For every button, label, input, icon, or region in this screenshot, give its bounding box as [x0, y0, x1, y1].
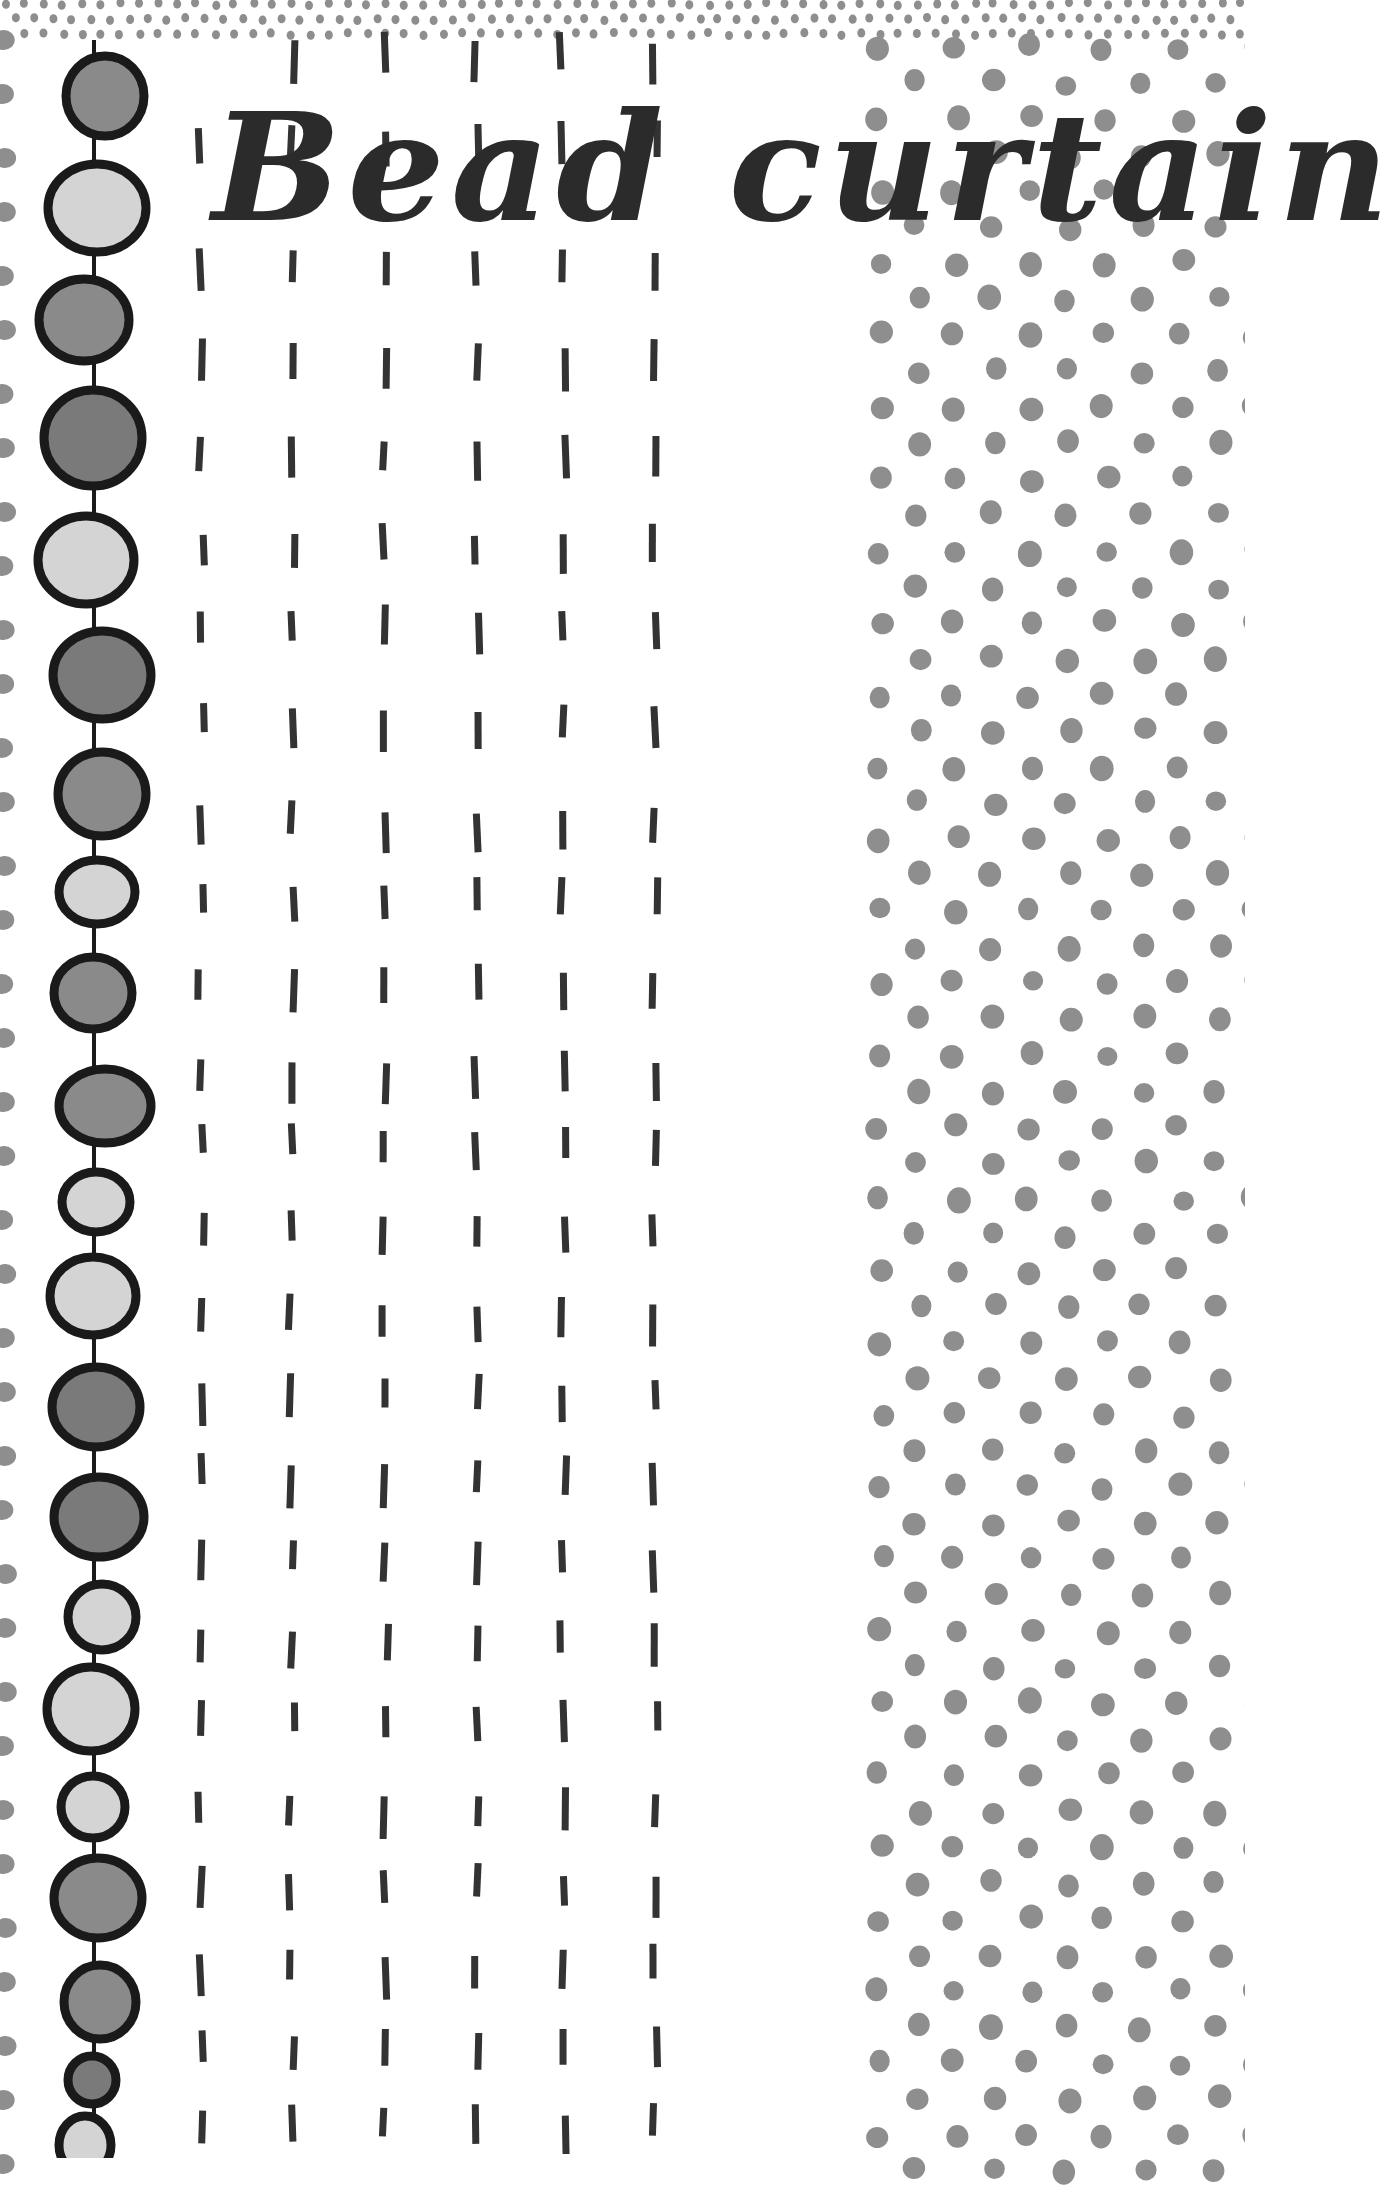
top-band-dot-icon — [430, 16, 438, 25]
polka-dot-field — [865, 33, 1245, 2185]
top-band-dot-icon — [20, 0, 28, 8]
polka-dot-icon — [1131, 363, 1154, 385]
polka-dot-icon — [867, 1617, 891, 1641]
polka-dot-icon — [870, 687, 890, 708]
polka-dot-icon — [947, 1187, 971, 1213]
top-dot-band — [2, 0, 1244, 40]
dash-mark-icon — [197, 611, 204, 642]
polka-dot-icon — [1054, 1443, 1075, 1463]
polka-dot-icon — [940, 1045, 964, 1069]
polka-dot-icon — [1205, 1511, 1228, 1535]
top-band-dot-icon — [1046, 0, 1054, 9]
polka-dot-icon — [1209, 1581, 1231, 1606]
top-band-dot-icon — [1142, 0, 1150, 7]
polka-dot-icon — [978, 862, 1001, 887]
polka-dot-icon — [986, 357, 1007, 380]
polka-dot-icon — [903, 1439, 925, 1462]
top-band-dot-icon — [212, 1, 220, 10]
top-band-dot-icon — [495, 0, 503, 8]
dash-mark-icon — [288, 1210, 296, 1240]
bead-icon — [48, 164, 146, 252]
dash-mark-icon — [197, 1540, 205, 1581]
polka-dot-icon — [1173, 1837, 1193, 1859]
top-band-dot-icon — [136, 30, 144, 39]
dash-mark-icon — [561, 1051, 569, 1092]
polka-dot-icon — [1166, 1042, 1189, 1064]
dash-mark-icon — [471, 251, 479, 285]
dash-mark-icon — [473, 441, 481, 480]
dash-mark-icon — [380, 886, 388, 920]
dash-mark-icon — [473, 877, 480, 910]
polka-dot-icon — [871, 1691, 893, 1712]
polka-dot-icon — [1243, 610, 1245, 633]
polka-dot-icon — [1206, 792, 1227, 811]
edge-dot-icon — [0, 1382, 16, 1402]
top-band-dot-icon — [982, 13, 990, 22]
bead-icon — [64, 1965, 136, 2039]
dash-mark-icon — [649, 1463, 657, 1506]
polka-dot-icon — [942, 757, 965, 782]
top-band-dot-icon — [1084, 30, 1092, 39]
edge-dot-icon — [0, 1736, 14, 1756]
dash-mark-icon — [289, 250, 297, 282]
polka-dot-icon — [944, 1690, 967, 1715]
polka-dot-icon — [941, 322, 963, 345]
polka-dot-icon — [1023, 971, 1043, 990]
top-band-dot-icon — [1207, 14, 1215, 23]
bead-icon — [54, 957, 132, 1029]
polka-dot-icon — [906, 1873, 930, 1897]
edge-dot-icon — [0, 1328, 15, 1348]
top-band-dot-icon — [219, 15, 227, 24]
top-band-dot-icon — [932, 29, 940, 38]
polka-dot-icon — [909, 1801, 932, 1826]
top-band-dot-icon — [58, 1, 66, 10]
polka-dot-icon — [870, 321, 893, 344]
top-band-dot-icon — [449, 15, 457, 24]
polka-dot-icon — [1171, 1910, 1194, 1932]
edge-dot-icon — [0, 502, 16, 522]
polka-dot-icon — [908, 363, 930, 384]
polka-dot-icon — [1210, 1368, 1232, 1392]
polka-dot-icon — [1242, 2123, 1245, 2146]
top-band-dot-icon — [961, 15, 969, 24]
top-band-dot-icon — [573, 0, 581, 8]
top-band-dot-icon — [780, 29, 788, 38]
dash-mark-icon — [651, 1794, 659, 1827]
top-band-dot-icon — [201, 14, 209, 23]
polka-dot-icon — [1243, 328, 1245, 348]
top-band-dot-icon — [697, 14, 705, 23]
dash-mark-icon — [285, 1796, 293, 1826]
top-band-dot-icon — [440, 30, 448, 39]
top-band-dot-icon — [647, 0, 655, 8]
polka-dot-icon — [983, 1657, 1004, 1680]
top-band-dot-icon — [706, 1, 714, 10]
dash-mark-icon — [474, 1796, 482, 1826]
top-band-dot-icon — [411, 16, 419, 25]
top-band-dot-icon — [972, 0, 980, 8]
edge-dot-icon — [0, 320, 16, 340]
dash-mark-icon — [560, 2029, 567, 2065]
polka-dot-icon — [871, 254, 891, 274]
dash-mark-icon — [379, 441, 387, 470]
dash-mark-icon — [200, 1213, 208, 1246]
top-band-dot-icon — [126, 15, 134, 24]
top-band-dot-icon — [1058, 13, 1066, 22]
bead-icon — [62, 1172, 130, 1232]
edge-dot-icon — [0, 1264, 16, 1284]
top-band-dot-icon — [1036, 15, 1044, 24]
polka-dot-icon — [941, 2048, 964, 2072]
top-band-dot-icon — [1226, 15, 1234, 24]
polka-dot-icon — [1242, 899, 1245, 920]
top-band-dot-icon — [941, 15, 949, 24]
dash-mark-icon — [649, 808, 657, 843]
top-band-dot-icon — [610, 28, 618, 37]
polka-dot-icon — [945, 1473, 966, 1495]
polka-dot-icon — [1091, 2125, 1112, 2149]
dash-mark-icon — [649, 1944, 656, 1979]
polka-dot-icon — [866, 37, 889, 61]
polka-dot-icon — [908, 860, 931, 885]
polka-dot-icon — [1132, 1583, 1153, 1607]
polka-dot-icon — [1241, 1184, 1245, 1209]
edge-dot-icon — [0, 856, 16, 876]
dash-mark-icon — [287, 800, 296, 834]
